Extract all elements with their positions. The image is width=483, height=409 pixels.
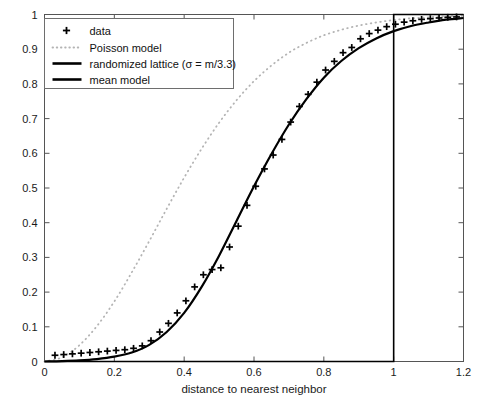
legend-label: Poisson model [90, 42, 162, 54]
legend-label: randomized lattice (σ = m/3.3) [90, 58, 237, 70]
legend-label: data [90, 25, 112, 37]
y-tick-label: 0.8 [22, 78, 37, 90]
x-tick-label: 1 [391, 366, 397, 378]
y-tick-label: 0.5 [22, 182, 37, 194]
y-tick-label: 0.1 [22, 321, 37, 333]
y-tick-label: 0.9 [22, 43, 37, 55]
y-tick-label: 1 [31, 9, 37, 21]
x-tick-label: 0.6 [246, 366, 261, 378]
x-tick-label: 0.8 [316, 366, 331, 378]
x-tick-label: 0 [41, 366, 47, 378]
x-tick-label: 0.2 [107, 366, 122, 378]
y-tick-label: 0.3 [22, 251, 37, 263]
plot-canvas: 00.20.40.60.811.2 00.10.20.30.40.50.60.7… [0, 0, 483, 409]
legend-label: mean model [90, 74, 151, 86]
y-tick-label: 0 [31, 356, 37, 368]
chart-figure: 00.20.40.60.811.2 00.10.20.30.40.50.60.7… [0, 0, 483, 409]
legend: dataPoisson modelrandomized lattice (σ =… [45, 19, 237, 89]
x-tick-label: 1.2 [456, 366, 471, 378]
x-axis-label: distance to nearest neighbor [181, 383, 326, 395]
y-tick-label: 0.2 [22, 286, 37, 298]
x-tick-label: 0.4 [177, 366, 192, 378]
y-tick-label: 0.7 [22, 113, 37, 125]
y-tick-label: 0.6 [22, 147, 37, 159]
y-tick-label: 0.4 [22, 217, 37, 229]
